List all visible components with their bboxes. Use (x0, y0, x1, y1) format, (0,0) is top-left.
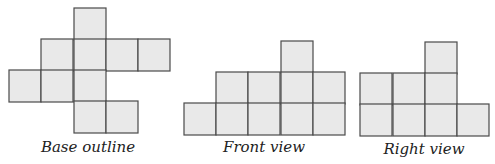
grid-cell (248, 103, 280, 135)
grid-cell (281, 103, 313, 135)
right-view-label: Right view (382, 140, 464, 158)
grid-cell (41, 39, 73, 71)
grid-cell (184, 103, 216, 135)
front-view-figure (184, 41, 345, 135)
right-view-figure (360, 42, 489, 136)
grid-cell (281, 41, 313, 73)
grid-cell (138, 39, 170, 71)
grid-cell (313, 103, 345, 135)
grid-cell (457, 104, 489, 136)
grid-cell (425, 42, 457, 74)
grid-cell (106, 101, 138, 133)
grid-cell (360, 104, 392, 136)
grid-cell (425, 73, 457, 105)
grid-cell (360, 73, 392, 105)
grid-cell (425, 104, 457, 136)
grid-cell (74, 39, 106, 71)
grid-cell (313, 72, 345, 104)
grid-cell (281, 72, 313, 104)
grid-cell (393, 73, 425, 105)
grid-cell (393, 104, 425, 136)
grid-cell (216, 103, 248, 135)
grid-cell (216, 72, 248, 104)
grid-cell (106, 39, 138, 71)
front-view-label: Front view (222, 138, 305, 156)
grid-cell (74, 101, 106, 133)
base-outline-label: Base outline (40, 138, 135, 156)
views-diagram: Base outline Front view Right view (0, 0, 495, 164)
grid-cell (74, 70, 106, 102)
grid-cell (9, 70, 41, 102)
base-outline-figure (9, 8, 170, 133)
grid-cell (74, 8, 106, 40)
grid-cell (248, 72, 280, 104)
grid-cell (41, 70, 73, 102)
